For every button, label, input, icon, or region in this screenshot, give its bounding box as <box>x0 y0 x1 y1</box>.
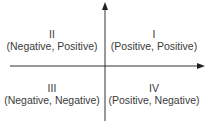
quadrant-iv: IV (Positive, Negative) <box>104 82 204 106</box>
quadrant-i-signs: (Positive, Positive) <box>104 40 204 52</box>
quadrant-iii: III (Negative, Negative) <box>0 82 104 106</box>
y-axis-arrow-icon <box>102 2 108 10</box>
x-axis-arrow-icon <box>197 63 205 69</box>
quadrant-i: I (Positive, Positive) <box>104 28 204 52</box>
quadrant-ii-signs: (Negative, Positive) <box>0 40 104 52</box>
quadrant-iii-signs: (Negative, Negative) <box>0 94 104 106</box>
quadrant-ii: II (Negative, Positive) <box>0 28 104 52</box>
quadrant-i-numeral: I <box>104 28 204 40</box>
quadrant-ii-numeral: II <box>0 28 104 40</box>
quadrant-iii-numeral: III <box>0 82 104 94</box>
quadrant-iv-numeral: IV <box>104 82 204 94</box>
coordinate-axes <box>0 0 210 131</box>
quadrant-iv-signs: (Positive, Negative) <box>104 94 204 106</box>
